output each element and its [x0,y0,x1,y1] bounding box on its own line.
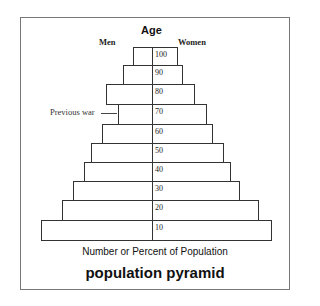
age-tick-label: 60 [155,127,163,136]
age-axis-label: Age [141,24,162,36]
age-tick-label: 80 [155,87,163,96]
age-tick-label: 20 [155,203,163,212]
pyramid-bar-age-80 [106,84,195,105]
previous-war-pointer [101,113,117,114]
diagram-title: population pyramid [20,264,290,281]
age-tick-label: 40 [155,165,163,174]
age-tick-label: 90 [155,68,163,77]
age-tick-label: 70 [155,107,163,116]
age-tick-label: 10 [155,223,163,232]
men-label: Men [99,37,116,47]
age-tick-label: 50 [155,146,163,155]
previous-war-annotation: Previous war [50,107,95,117]
x-axis-label: Number or Percent of Population [20,246,290,257]
center-axis-line [152,47,153,240]
pyramid-bar-age-90 [123,65,183,85]
women-label: Women [178,37,206,47]
age-tick-label: 100 [155,50,167,59]
age-tick-label: 30 [155,184,163,193]
